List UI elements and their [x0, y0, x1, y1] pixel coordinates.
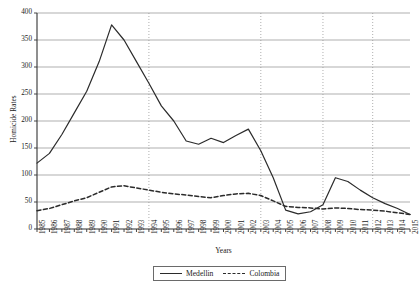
x-tick-2008: 2008 [326, 220, 333, 234]
x-tick-1999: 1999 [214, 220, 221, 234]
x-tick-2009: 2009 [338, 220, 345, 234]
x-tick-1990: 1990 [102, 220, 109, 234]
y-tick-50: 50 [6, 198, 32, 205]
y-tick-200: 200 [6, 117, 32, 124]
x-tick-1996: 1996 [177, 220, 184, 234]
x-tick-2014: 2014 [400, 220, 407, 234]
x-tick-1986: 1986 [52, 220, 59, 234]
x-tick-2000: 2000 [226, 220, 233, 234]
y-tick-100: 100 [6, 171, 32, 178]
chart-legend: MedellinColombia [153, 266, 286, 281]
x-tick-1987: 1987 [65, 220, 72, 234]
legend-swatch-colombia [223, 270, 245, 277]
x-tick-2003: 2003 [264, 220, 271, 234]
x-tick-2015: 2015 [413, 220, 419, 234]
y-tick-250: 250 [6, 90, 32, 97]
series-line-colombia [37, 186, 410, 215]
y-tick-300: 300 [6, 63, 32, 70]
y-tick-0: 0 [6, 225, 32, 232]
legend-label: Colombia [249, 269, 279, 278]
legend-swatch-medellin [160, 270, 182, 277]
x-axis-label: Years [0, 246, 419, 255]
x-tick-1989: 1989 [90, 220, 97, 234]
homicide-rates-line-chart: Homicide Rates Years 0501001502002503003… [0, 0, 419, 292]
x-tick-2006: 2006 [301, 220, 308, 234]
x-tick-2007: 2007 [313, 220, 320, 234]
y-tick-150: 150 [6, 144, 32, 151]
x-tick-2012: 2012 [376, 220, 383, 234]
x-tick-1991: 1991 [114, 220, 121, 234]
x-tick-1992: 1992 [127, 220, 134, 234]
legend-item-medellin: Medellin [160, 269, 213, 278]
x-tick-1988: 1988 [77, 220, 84, 234]
x-tick-2013: 2013 [388, 220, 395, 234]
x-tick-2010: 2010 [351, 220, 358, 234]
x-tick-2005: 2005 [288, 220, 295, 234]
series-line-medellin [37, 25, 410, 215]
x-tick-1994: 1994 [152, 220, 159, 234]
legend-item-colombia: Colombia [223, 269, 279, 278]
y-tick-350: 350 [6, 36, 32, 43]
x-tick-2011: 2011 [363, 220, 370, 234]
x-tick-2004: 2004 [276, 220, 283, 234]
x-tick-1995: 1995 [164, 220, 171, 234]
x-tick-1985: 1985 [40, 220, 47, 234]
legend-label: Medellin [186, 269, 213, 278]
x-tick-1997: 1997 [189, 220, 196, 234]
x-tick-2002: 2002 [251, 220, 258, 234]
y-tick-400: 400 [6, 9, 32, 16]
x-tick-1993: 1993 [139, 220, 146, 234]
x-tick-1998: 1998 [201, 220, 208, 234]
x-tick-2001: 2001 [239, 220, 246, 234]
